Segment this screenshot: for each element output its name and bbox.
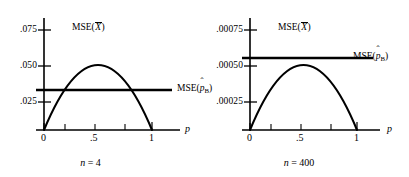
line-label-phat: ˆp xyxy=(200,83,205,93)
y-tick-label-075: .075 xyxy=(4,24,37,34)
figure-mse-comparison: .075 .050 .025 0 .5 1 p MSE(X) MSE(ˆpB) … xyxy=(0,0,409,177)
curve-mse-xbar xyxy=(44,65,152,130)
curve-mse-xbar xyxy=(250,65,357,130)
chart-panel-n400: .00075 .00050 .00025 0 .5 1 p MSE(X) MSE… xyxy=(205,0,409,177)
curve-label-mse-xbar: MSE(X) xyxy=(72,22,105,33)
x-axis-name: p xyxy=(185,123,190,134)
y-tick-label-00075: .00075 xyxy=(205,24,243,34)
hat-accent-icon: ˆ xyxy=(377,45,380,54)
x-tick-label-1: 1 xyxy=(354,132,359,143)
chart-panel-n4: .075 .050 .025 0 .5 1 p MSE(X) MSE(ˆpB) … xyxy=(0,0,205,177)
y-tick-label-025: .025 xyxy=(4,96,37,106)
curve-label-prefix: MSE( xyxy=(278,22,301,32)
curve-label-mse-xbar: MSE(X) xyxy=(278,22,311,33)
x-tick-label-05: .5 xyxy=(90,132,98,143)
hat-accent-icon: ˆ xyxy=(201,77,204,86)
x-tick-label-05: .5 xyxy=(296,132,304,143)
curve-label-xbar: X xyxy=(95,22,102,33)
x-axis-name: p xyxy=(387,123,392,134)
x-tick-label-0: 0 xyxy=(41,132,46,143)
line-label-prefix: MSE( xyxy=(353,51,376,61)
panel-caption-n4: n = 4 xyxy=(0,157,193,168)
caption-value: = 4 xyxy=(85,157,101,168)
line-label-suffix: ) xyxy=(385,51,388,61)
line-label-phat: ˆp xyxy=(376,51,381,61)
line-label-prefix: MSE( xyxy=(177,83,200,93)
y-tick-label-00025: .00025 xyxy=(205,96,243,106)
x-tick-label-1: 1 xyxy=(149,132,154,143)
x-tick-label-0: 0 xyxy=(247,132,252,143)
y-tick-label-00050: .00050 xyxy=(205,60,243,70)
curve-label-xbar: X xyxy=(301,22,308,33)
caption-value: = 400 xyxy=(289,157,315,168)
curve-label-suffix: ) xyxy=(102,22,105,32)
y-tick-label-050: .050 xyxy=(4,60,37,70)
curve-label-suffix: ) xyxy=(308,22,311,32)
curve-label-prefix: MSE( xyxy=(72,22,95,32)
panel-caption-n400: n = 400 xyxy=(197,157,401,168)
line-label-mse-phat-b: MSE(ˆpB) xyxy=(353,51,388,62)
